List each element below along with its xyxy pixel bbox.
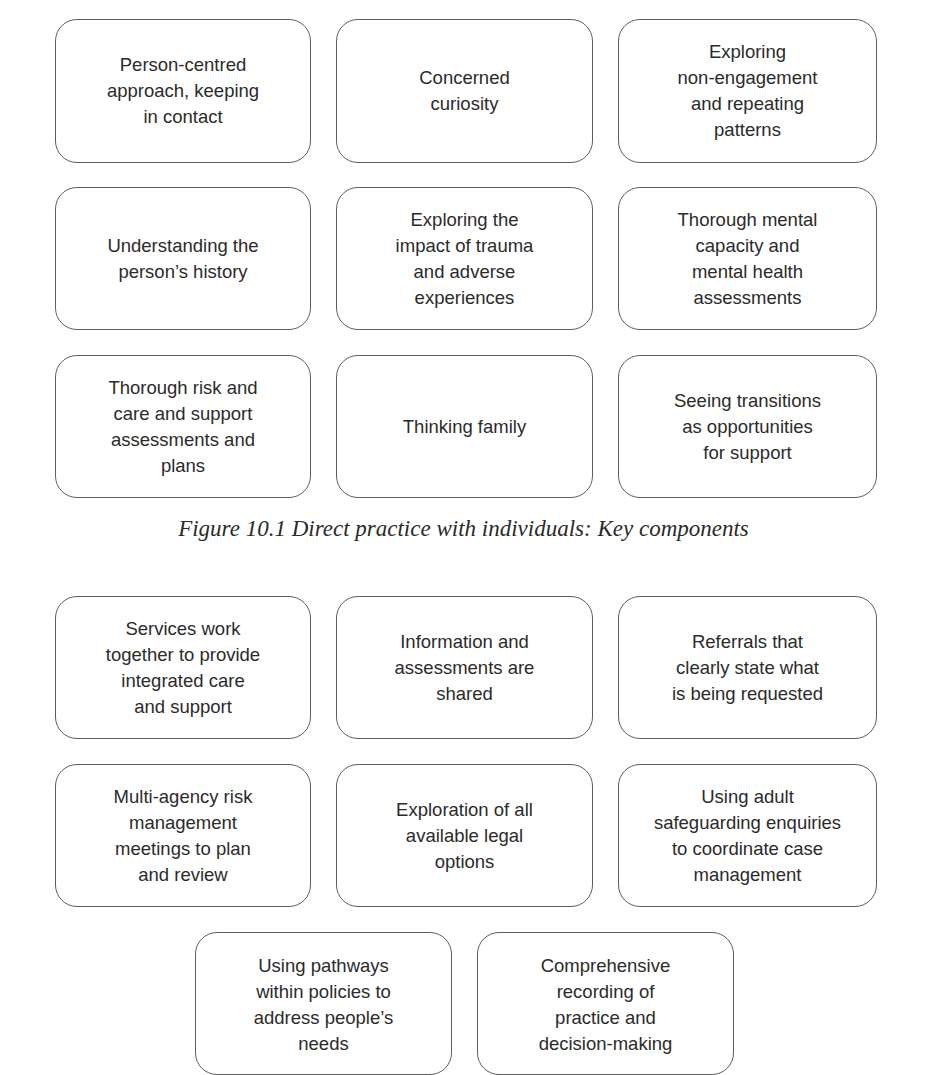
component-box: Thorough mental capacity and mental heal… [618, 187, 877, 330]
component-box: Thorough risk and care and support asses… [55, 355, 311, 498]
figure-caption: Figure 10.1 Direct practice with individ… [0, 516, 927, 542]
component-box: Concerned curiosity [336, 19, 593, 163]
component-label: Multi-agency risk management meetings to… [114, 784, 253, 888]
component-label: Thorough risk and care and support asses… [108, 375, 257, 479]
component-label: Using pathways within policies to addres… [254, 953, 394, 1057]
component-box: Comprehensive recording of practice and … [477, 932, 734, 1075]
component-label: Exploration of all available legal optio… [396, 797, 533, 875]
component-box: Using pathways within policies to addres… [195, 932, 452, 1075]
component-label: Comprehensive recording of practice and … [539, 953, 673, 1057]
component-label: Exploring the impact of trauma and adver… [396, 207, 534, 311]
component-label: Understanding the person’s history [107, 233, 258, 285]
component-box: Person-centred approach, keeping in cont… [55, 19, 311, 163]
component-label: Thorough mental capacity and mental heal… [678, 207, 818, 311]
component-box: Multi-agency risk management meetings to… [55, 764, 311, 907]
component-label: Services work together to provide integr… [106, 616, 260, 720]
component-label: Using adult safeguarding enquiries to co… [654, 784, 841, 888]
component-box: Seeing transitions as opportunities for … [618, 355, 877, 498]
component-box: Using adult safeguarding enquiries to co… [618, 764, 877, 907]
component-box: Understanding the person’s history [55, 187, 311, 330]
component-label: Information and assessments are shared [395, 629, 535, 707]
component-box: Services work together to provide integr… [55, 596, 311, 739]
component-label: Referrals that clearly state what is bei… [672, 629, 823, 707]
component-label: Seeing transitions as opportunities for … [674, 388, 821, 466]
component-box: Referrals that clearly state what is bei… [618, 596, 877, 739]
component-box: Exploring non-engagement and repeating p… [618, 19, 877, 163]
component-label: Concerned curiosity [419, 65, 510, 117]
component-box: Exploration of all available legal optio… [336, 764, 593, 907]
component-box: Thinking family [336, 355, 593, 498]
component-box: Information and assessments are shared [336, 596, 593, 739]
component-label: Person-centred approach, keeping in cont… [107, 52, 259, 130]
component-box: Exploring the impact of trauma and adver… [336, 187, 593, 330]
component-label: Thinking family [403, 414, 526, 440]
component-label: Exploring non-engagement and repeating p… [678, 39, 818, 143]
